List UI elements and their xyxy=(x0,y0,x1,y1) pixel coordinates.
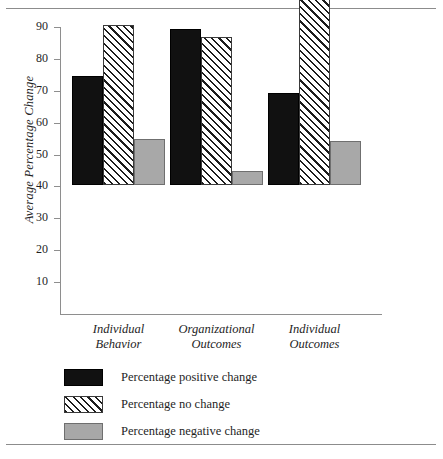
bar xyxy=(330,141,361,185)
hatched-swatch xyxy=(64,396,103,413)
legend-item: Percentage negative change xyxy=(64,418,394,445)
bar xyxy=(170,29,201,185)
bar xyxy=(201,37,232,185)
legend-item: Percentage positive change xyxy=(64,364,394,391)
legend-item-label: Percentage negative change xyxy=(121,424,260,439)
bar xyxy=(134,139,165,185)
bar xyxy=(232,171,263,185)
black-swatch xyxy=(64,369,103,386)
bar xyxy=(72,76,103,185)
x-axis-category-label-line: Individual xyxy=(246,322,383,337)
legend-item-label: Percentage positive change xyxy=(121,370,257,385)
x-axis-category-label-line: Outcomes xyxy=(246,337,383,352)
legend-item-label: Percentage no change xyxy=(121,397,230,412)
plot-area: Average Percentage Change 10203040506070… xyxy=(0,0,443,330)
bar-group-container xyxy=(0,0,443,330)
bar xyxy=(299,0,330,185)
gray-swatch xyxy=(64,423,103,440)
bar-chart-figure: Average Percentage Change 10203040506070… xyxy=(0,0,443,459)
legend-item: Percentage no change xyxy=(64,391,394,418)
bar xyxy=(103,25,134,185)
bar xyxy=(268,93,299,185)
x-axis-category-label: IndividualOutcomes xyxy=(246,322,383,352)
chart-legend: Percentage positive changePercentage no … xyxy=(64,364,394,445)
